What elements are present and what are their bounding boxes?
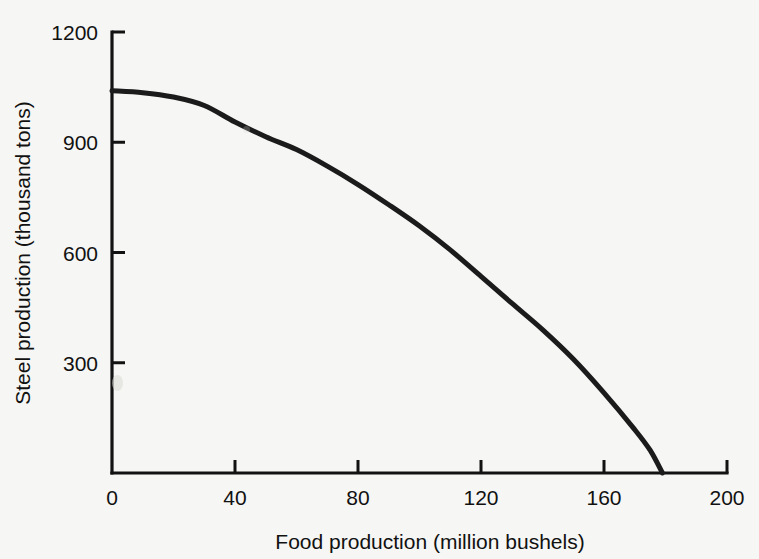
x-tick-label: 80 — [346, 486, 369, 509]
y-axis-title: Steel production (thousand tons) — [11, 101, 34, 405]
x-axis-tick-labels: 04080120160200 — [106, 486, 744, 509]
ppf-chart: 3006009001200 04080120160200 Food produc… — [0, 0, 759, 559]
y-tick-label: 600 — [63, 242, 98, 265]
x-tick-label: 120 — [463, 486, 498, 509]
y-axis-tick-labels: 3006009001200 — [51, 21, 98, 375]
y-tick-label: 1200 — [51, 21, 98, 44]
x-tick-label: 200 — [709, 486, 744, 509]
y-tick-label: 300 — [63, 352, 98, 375]
x-tick-label: 0 — [106, 486, 118, 509]
y-axis-ticks — [112, 32, 125, 363]
x-axis-ticks — [235, 460, 727, 473]
x-tick-label: 40 — [223, 486, 246, 509]
x-tick-label: 160 — [586, 486, 621, 509]
chart-container: 3006009001200 04080120160200 Food produc… — [0, 0, 759, 559]
y-tick-label: 900 — [63, 131, 98, 154]
x-axis-title: Food production (million bushels) — [275, 530, 584, 553]
ppf-curve — [112, 91, 662, 473]
